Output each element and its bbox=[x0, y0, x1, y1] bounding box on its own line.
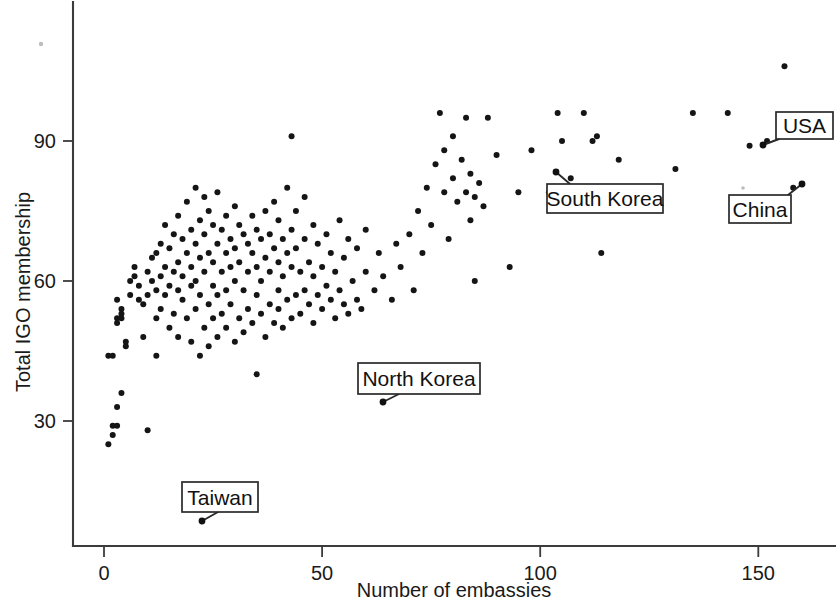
data-point bbox=[210, 222, 216, 228]
data-point bbox=[310, 320, 316, 326]
data-point bbox=[132, 273, 138, 279]
data-point bbox=[232, 245, 238, 251]
data-point bbox=[424, 185, 430, 191]
data-point bbox=[297, 269, 303, 275]
callout-target-point bbox=[199, 518, 206, 525]
data-point bbox=[380, 273, 386, 279]
data-point bbox=[193, 306, 199, 312]
data-point bbox=[358, 306, 364, 312]
data-point bbox=[188, 339, 194, 345]
x-axis-title: Number of embassies bbox=[357, 579, 552, 601]
data-point bbox=[459, 157, 465, 163]
data-point bbox=[315, 241, 321, 247]
data-point bbox=[515, 189, 521, 195]
data-point bbox=[293, 208, 299, 214]
data-point bbox=[158, 241, 164, 247]
data-point bbox=[284, 250, 290, 256]
y-tick-label: 90 bbox=[34, 130, 56, 152]
data-point bbox=[140, 301, 146, 307]
x-tick-label: 50 bbox=[311, 562, 333, 584]
data-point bbox=[145, 292, 151, 298]
data-point bbox=[258, 278, 264, 284]
data-point bbox=[306, 301, 312, 307]
data-point bbox=[132, 264, 138, 270]
data-point bbox=[559, 138, 565, 144]
data-point bbox=[747, 143, 753, 149]
data-point bbox=[310, 273, 316, 279]
x-tick-label: 150 bbox=[742, 562, 775, 584]
data-point bbox=[127, 292, 133, 298]
data-point bbox=[328, 297, 334, 303]
data-point bbox=[145, 427, 151, 433]
data-point bbox=[289, 133, 295, 139]
data-point bbox=[555, 110, 561, 116]
data-point bbox=[672, 166, 678, 172]
data-point bbox=[188, 283, 194, 289]
data-point bbox=[419, 250, 425, 256]
data-point bbox=[363, 269, 369, 275]
data-point bbox=[337, 287, 343, 293]
data-point bbox=[258, 236, 264, 242]
data-point bbox=[201, 231, 207, 237]
data-point bbox=[180, 273, 186, 279]
data-point bbox=[158, 306, 164, 312]
data-point bbox=[193, 241, 199, 247]
data-point bbox=[166, 325, 172, 331]
data-point bbox=[450, 133, 456, 139]
data-point bbox=[306, 259, 312, 265]
callout-label: North Korea bbox=[362, 367, 476, 390]
data-point bbox=[210, 315, 216, 321]
annotation-layer: TaiwanNorth KoreaSouth KoreaUSAChina bbox=[182, 112, 833, 524]
scatter-chart-figure: 306090 050100150 TaiwanNorth KoreaSouth … bbox=[0, 0, 836, 608]
data-point bbox=[297, 311, 303, 317]
data-point bbox=[480, 203, 486, 209]
data-point bbox=[236, 315, 242, 321]
y-axis-title: Total IGO membership bbox=[12, 192, 34, 392]
data-point bbox=[398, 264, 404, 270]
data-point bbox=[289, 264, 295, 270]
data-point bbox=[219, 311, 225, 317]
data-point bbox=[467, 217, 473, 223]
data-point bbox=[236, 222, 242, 228]
data-point bbox=[149, 255, 155, 261]
data-point bbox=[341, 301, 347, 307]
data-point bbox=[284, 185, 290, 191]
data-point bbox=[450, 175, 456, 181]
data-point bbox=[171, 231, 177, 237]
data-point bbox=[145, 269, 151, 275]
data-point bbox=[206, 208, 212, 214]
data-point bbox=[289, 315, 295, 321]
data-point bbox=[188, 227, 194, 233]
data-point bbox=[241, 231, 247, 237]
data-point bbox=[206, 301, 212, 307]
data-point bbox=[463, 189, 469, 195]
data-point bbox=[441, 189, 447, 195]
data-point bbox=[214, 241, 220, 247]
data-point bbox=[197, 217, 203, 223]
data-point bbox=[114, 423, 120, 429]
data-point bbox=[228, 301, 234, 307]
data-point bbox=[271, 320, 277, 326]
data-point bbox=[275, 306, 281, 312]
data-point bbox=[275, 259, 281, 265]
data-point bbox=[223, 213, 229, 219]
x-tick-label: 0 bbox=[98, 562, 109, 584]
data-point bbox=[249, 213, 255, 219]
annotation-callout: USA bbox=[760, 112, 833, 148]
data-point bbox=[411, 287, 417, 293]
data-point bbox=[136, 283, 142, 289]
data-point bbox=[393, 241, 399, 247]
data-point bbox=[262, 255, 268, 261]
data-point bbox=[302, 236, 308, 242]
data-point bbox=[184, 250, 190, 256]
data-point bbox=[267, 231, 273, 237]
data-point bbox=[118, 390, 124, 396]
data-point bbox=[323, 231, 329, 237]
data-point bbox=[345, 311, 351, 317]
data-point bbox=[262, 334, 268, 340]
data-point bbox=[197, 353, 203, 359]
data-point bbox=[223, 250, 229, 256]
data-point bbox=[590, 138, 596, 144]
data-point bbox=[485, 115, 491, 121]
data-point bbox=[140, 334, 146, 340]
